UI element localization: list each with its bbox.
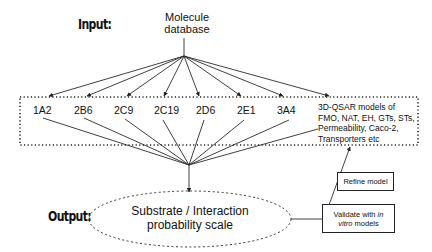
model-2b6: 2B6 [74, 104, 93, 116]
output-label: Output: [48, 208, 91, 224]
output-line2: probability scale [120, 218, 260, 232]
source-line1: Molecule [152, 11, 222, 23]
model-2c19: 2C19 [154, 104, 179, 116]
model-2e1: 2E1 [237, 104, 256, 116]
model-3a4: 3A4 [277, 104, 296, 116]
output-node-text: Substrate / Interaction probability scal… [120, 204, 260, 232]
qsar-models-text: 3D-QSAR models of FMO, NAT, EH, GTs, STs… [318, 102, 418, 144]
output-line1: Substrate / Interaction [120, 204, 260, 218]
input-label: Input: [78, 16, 111, 32]
molecule-database-node: Molecule database [152, 11, 222, 35]
model-1a2: 1A2 [33, 104, 52, 116]
fan-in-lines [43, 118, 318, 165]
model-2c9: 2C9 [114, 104, 133, 116]
model-2d6: 2D6 [196, 104, 215, 116]
validate-box: Validate with in vitro models [322, 204, 395, 233]
fan-out-arrows [49, 56, 329, 96]
validate-line2: vitro models [338, 219, 378, 228]
source-line2: database [152, 23, 222, 35]
validate-line1: Validate with in [334, 210, 384, 219]
refine-model-box: Refine model [337, 172, 394, 191]
